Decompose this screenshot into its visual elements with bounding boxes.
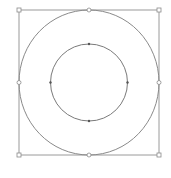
anchor-bottom[interactable] — [88, 120, 90, 122]
handle-bottom-left[interactable] — [17, 153, 21, 157]
handle-bottom-right[interactable] — [157, 153, 161, 157]
handle-middle-right[interactable] — [157, 81, 161, 85]
outer-circle[interactable] — [19, 10, 159, 155]
handle-middle-left[interactable] — [17, 81, 21, 85]
vector-canvas[interactable] — [0, 0, 171, 178]
anchor-left[interactable] — [49, 81, 51, 83]
inner-circle[interactable] — [51, 44, 128, 121]
anchor-top[interactable] — [88, 43, 90, 45]
handle-top-left[interactable] — [17, 8, 21, 12]
anchor-right[interactable] — [126, 81, 128, 83]
inner-anchor-points[interactable] — [49, 43, 128, 122]
transform-handles[interactable] — [17, 8, 161, 157]
handle-bottom-middle[interactable] — [87, 153, 91, 157]
handle-top-right[interactable] — [157, 8, 161, 12]
selection-bounding-box — [19, 10, 159, 155]
handle-top-middle[interactable] — [87, 8, 91, 12]
